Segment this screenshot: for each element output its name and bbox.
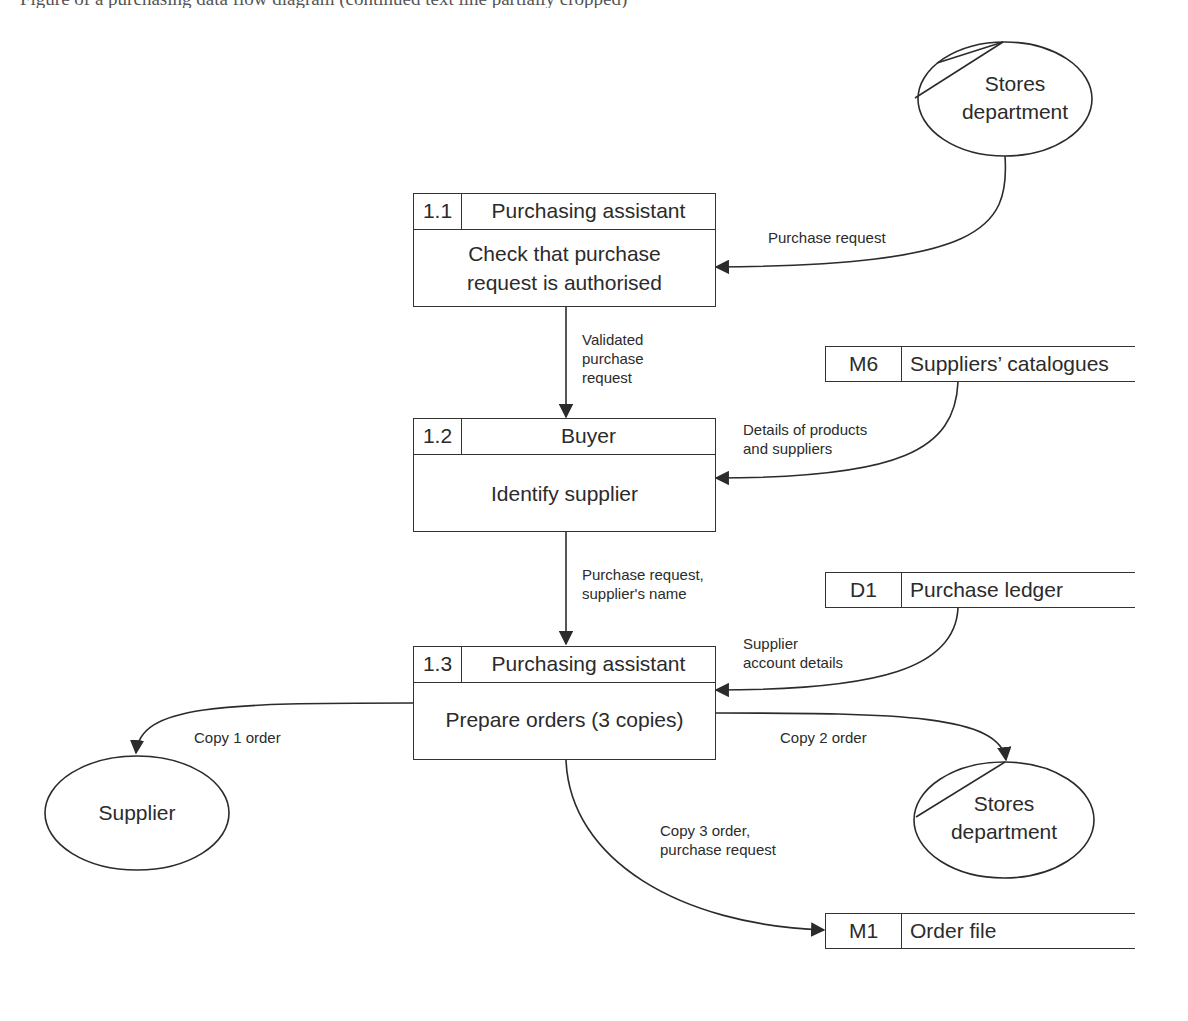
process-description: Prepare orders (3 copies) [414, 683, 715, 759]
entity-label-line: department [934, 818, 1074, 846]
process-actor: Purchasing assistant [462, 647, 715, 682]
data-store-id: M6 [826, 347, 902, 381]
flow-label-copy-1-order: Copy 1 order [194, 728, 281, 747]
data-store-id: D1 [826, 573, 902, 607]
entity-stores-department-bottom: Stores department [934, 790, 1074, 846]
flow-label-line: Details of products [743, 420, 867, 439]
flow-label-line: Copy 3 order, [660, 821, 776, 840]
flow-label-line: purchase request [660, 840, 776, 859]
data-store-m6: M6 Suppliers’ catalogues [825, 346, 1135, 382]
flow-label-line: Validated [582, 330, 644, 349]
entity-label-line: Stores [945, 70, 1085, 98]
data-store-name: Suppliers’ catalogues [902, 347, 1135, 381]
process-id: 1.3 [414, 647, 462, 682]
process-1-1: 1.1 Purchasing assistant Check that purc… [413, 193, 716, 307]
flow-label-line: Purchase request, [582, 565, 704, 584]
flow-label-line: supplier's name [582, 584, 704, 603]
process-id: 1.1 [414, 194, 462, 229]
data-store-name: Order file [902, 914, 1135, 948]
data-store-name: Purchase ledger [902, 573, 1135, 607]
process-description-line: request is authorised [467, 268, 662, 297]
data-store-id: M1 [826, 914, 902, 948]
process-id: 1.2 [414, 419, 462, 454]
flow-label-line: purchase [582, 349, 644, 368]
entity-label-line: Stores [934, 790, 1074, 818]
entity-stores-department-top: Stores department [945, 70, 1085, 126]
entity-supplier: Supplier [67, 799, 207, 827]
flow-label-purchase-request: Purchase request [768, 228, 886, 247]
flow-label-line: and suppliers [743, 439, 867, 458]
flow-label-copy-2-order: Copy 2 order [780, 728, 867, 747]
flow-label-line: Supplier [743, 634, 843, 653]
flow-label-purchase-request-supplier-name: Purchase request, supplier's name [582, 565, 704, 603]
process-description: Identify supplier [414, 455, 715, 531]
flow-label-copy-3-order: Copy 3 order, purchase request [660, 821, 776, 859]
process-description: Check that purchaserequest is authorised [414, 230, 715, 306]
process-1-3: 1.3 Purchasing assistant Prepare orders … [413, 646, 716, 760]
flow-label-line: request [582, 368, 644, 387]
flow-label-supplier-account-details: Supplier account details [743, 634, 843, 672]
process-actor: Buyer [462, 419, 715, 454]
flow-label-details-of-products: Details of products and suppliers [743, 420, 867, 458]
process-1-2: 1.2 Buyer Identify supplier [413, 418, 716, 532]
process-description-line: Check that purchase [467, 239, 662, 268]
flow-label-validated-purchase-request: Validated purchase request [582, 330, 644, 387]
process-actor: Purchasing assistant [462, 194, 715, 229]
flow-label-line: account details [743, 653, 843, 672]
data-store-m1: M1 Order file [825, 913, 1135, 949]
data-store-d1: D1 Purchase ledger [825, 572, 1135, 608]
entity-label-line: department [945, 98, 1085, 126]
